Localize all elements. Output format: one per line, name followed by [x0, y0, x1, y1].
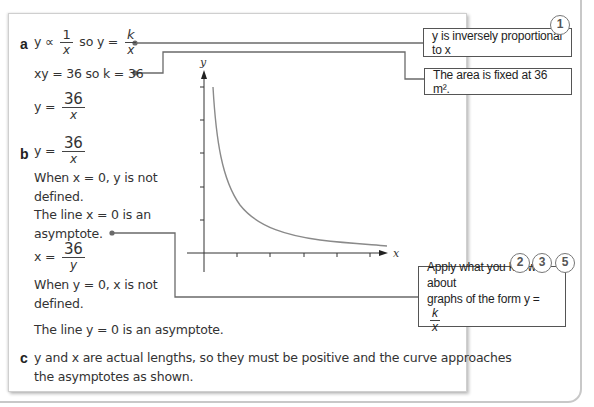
- part-b-line-3: defined.: [34, 189, 83, 204]
- connectors-and-graph: [0, 0, 594, 407]
- frac-numerator: 36: [62, 92, 85, 108]
- proportional-text: y ∝: [34, 34, 54, 49]
- y-axis-label: y: [200, 56, 206, 69]
- frac-denominator: x: [62, 152, 85, 167]
- part-c-line-1: y and x are actual lengths, so they must…: [34, 350, 512, 365]
- callout-text: y is inversely proportional to x: [432, 29, 563, 57]
- part-b-line-6: x = 36y: [34, 242, 88, 273]
- frac-numerator: 36: [62, 136, 85, 152]
- part-b-line-2: When x = 0, y is not: [34, 170, 157, 185]
- skill-badge-3: 3: [532, 253, 552, 273]
- part-a-line-1: y ∝ 1x so y = kx: [34, 27, 139, 58]
- equation-prefix: x =: [34, 249, 55, 264]
- frac-denominator: x: [60, 43, 72, 58]
- part-c-label: c: [20, 350, 28, 366]
- curve-y-36-over-x: [213, 87, 387, 246]
- skill-badge-2: 2: [510, 253, 530, 273]
- callout-text-line-2: graphs of the form y = kx: [427, 291, 557, 334]
- part-a-label: a: [20, 36, 28, 52]
- y-axis-arrow: [201, 70, 207, 79]
- frac-denominator: y: [62, 258, 85, 273]
- reciprocal-graph: [187, 70, 388, 272]
- equation-prefix: y =: [34, 99, 55, 114]
- part-b-line-4: The line x = 0 is an: [34, 207, 151, 222]
- y-ticks: [200, 87, 204, 220]
- part-a-line-2: xy = 36 so k = 36: [34, 66, 143, 81]
- part-b-label: b: [20, 146, 29, 162]
- so-text: so y =: [79, 34, 118, 49]
- frac-numerator: k: [430, 307, 440, 321]
- x-axis-label: x: [393, 247, 399, 260]
- part-b-line-8: defined.: [34, 296, 83, 311]
- frac-denominator: x: [62, 108, 85, 123]
- part-b-line-1: y = 36x: [34, 136, 88, 167]
- frac-numerator: k: [125, 27, 136, 43]
- callout-inverse-proportion: y is inversely proportional to x: [423, 28, 572, 57]
- part-c-line-2: the asymptotes as shown.: [34, 369, 193, 384]
- frac-numerator: 36: [62, 242, 85, 258]
- frac-denominator: x: [125, 43, 136, 58]
- connector-lines: [112, 43, 424, 297]
- part-b-line-9: The line y = 0 is an asymptote.: [34, 322, 224, 337]
- callout-apply-graphs: Apply what you know about graphs of the …: [418, 266, 566, 327]
- x-ticks: [237, 253, 370, 257]
- callout-area-fixed: The area is fixed at 36 m².: [424, 68, 572, 95]
- frac-numerator: 1: [60, 27, 72, 43]
- callout-text: The area is fixed at 36 m².: [433, 68, 563, 96]
- part-b-line-5: asymptote.: [34, 226, 103, 241]
- skill-badge-1: 1: [550, 15, 570, 35]
- callout-text-prefix: graphs of the form y =: [427, 292, 540, 306]
- equation-prefix: y =: [34, 143, 55, 158]
- part-b-line-7: When y = 0, x is not: [34, 277, 157, 292]
- x-axis-arrow: [379, 250, 388, 256]
- part-a-line-3: y = 36x: [34, 92, 88, 123]
- skill-badge-5: 5: [555, 253, 575, 273]
- frac-denominator: x: [430, 321, 440, 334]
